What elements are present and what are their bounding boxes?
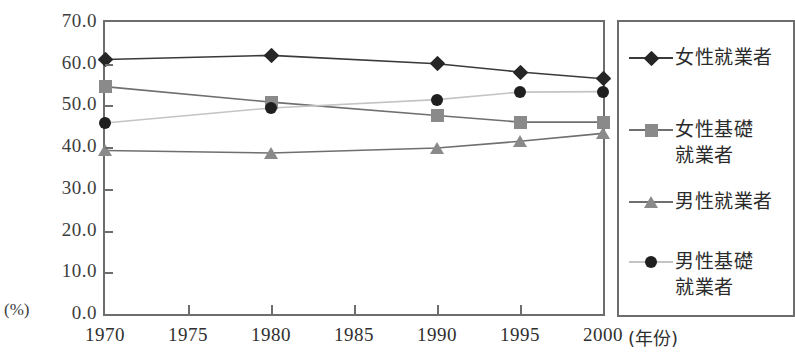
data-point-1-2 [431,109,444,122]
data-point-3-1 [265,102,277,114]
data-point-1-0 [99,80,112,93]
legend-item-1[interactable]: 女性基礎 就業者 [627,118,753,168]
y-axis-tick-label: 70.0 [0,10,97,32]
data-point-3-0 [99,117,111,129]
diamond-marker-icon [643,50,659,66]
y-axis-tick [105,147,113,149]
x-axis-unit-label: (年份) [628,324,678,350]
legend-key-0 [627,46,675,70]
data-point-1-3 [514,116,527,129]
y-axis-tick-label: 40.0 [0,135,97,157]
square-marker-icon [645,124,658,137]
y-axis-tick-label: 50.0 [0,93,97,115]
legend-label-3: 男性基礎 就業者 [675,248,753,300]
y-axis-tick-label: 20.0 [0,219,97,241]
x-axis-tick [520,305,522,315]
y-axis-tick [105,189,113,191]
x-axis-tick [188,305,190,315]
y-axis-tick-label: 30.0 [0,177,97,199]
x-axis-tick-label: 1985 [309,324,399,346]
series-lines [105,22,603,314]
legend-key-3 [627,250,675,274]
legend-key-1 [627,118,675,142]
series-line-2 [105,133,603,153]
x-axis-tick-label: 1980 [226,324,316,346]
triangle-marker-icon [644,196,658,208]
x-axis-tick [437,305,439,315]
data-point-2-4 [596,127,610,139]
x-axis-tick [354,305,356,315]
plot-area [103,20,605,316]
data-point-2-2 [430,142,444,154]
chart-legend: 女性就業者女性基礎 就業者男性就業者男性基礎 就業者 [617,20,795,317]
legend-key-2 [627,190,675,214]
chart-figure: 0.010.020.030.040.050.060.070.0 (%) 1970… [0,0,795,358]
data-point-3-2 [431,94,443,106]
legend-label-1: 女性基礎 就業者 [675,116,753,168]
series-line-0 [105,55,603,78]
legend-item-2[interactable]: 男性就業者 [627,190,773,214]
x-axis-tick-label: 1975 [143,324,233,346]
data-point-3-3 [514,86,526,98]
plot-inner [105,22,603,314]
circle-marker-icon [645,256,657,268]
legend-item-3[interactable]: 男性基礎 就業者 [627,250,753,300]
series-line-3 [105,92,603,123]
legend-item-0[interactable]: 女性就業者 [627,46,773,70]
data-point-2-3 [513,135,527,147]
y-axis-tick [105,231,113,233]
y-axis-tick [105,105,113,107]
x-axis-tick-label: 1970 [60,324,150,346]
y-axis-tick [105,64,113,66]
legend-label-0: 女性就業者 [675,44,773,70]
data-point-3-4 [597,86,609,98]
legend-label-2: 男性就業者 [675,188,773,214]
y-axis-unit-label: (%) [4,300,29,320]
data-point-2-1 [264,147,278,159]
x-axis-tick [271,305,273,315]
x-axis-tick-label: 1995 [475,324,565,346]
y-axis-tick-label: 60.0 [0,52,97,74]
x-axis-tick-label: 1990 [392,324,482,346]
y-axis-tick-label: 10.0 [0,260,97,282]
y-axis-tick [105,272,113,274]
